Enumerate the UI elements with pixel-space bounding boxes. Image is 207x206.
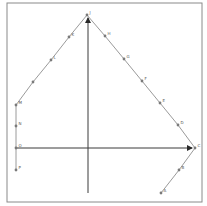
point-label: N	[19, 121, 22, 126]
point-label: A	[164, 188, 167, 193]
point-marker	[178, 169, 181, 172]
point-marker	[104, 35, 107, 38]
point-marker	[86, 14, 89, 17]
point-label: B	[182, 165, 185, 170]
point-marker	[15, 169, 18, 172]
point-marker	[15, 147, 18, 150]
point-marker	[50, 59, 53, 62]
point-label: C	[198, 143, 201, 148]
point-label: O	[19, 143, 22, 148]
point-label: E	[163, 98, 166, 103]
point-marker	[159, 102, 162, 105]
point-marker	[15, 125, 18, 128]
point-label: D	[181, 120, 184, 125]
point-path	[16, 15, 195, 193]
point-label: F	[145, 76, 148, 81]
point-marker	[194, 147, 197, 150]
point-marker	[141, 80, 144, 83]
point-label: G	[127, 54, 130, 59]
points-layer: ABCDEFGHJKLMNOP	[15, 10, 201, 195]
point-marker	[160, 192, 163, 195]
point-marker	[15, 104, 18, 107]
point-label: L	[54, 55, 57, 60]
point-label: H	[108, 31, 111, 36]
point-label: M	[19, 100, 23, 105]
diagram-svg: ABCDEFGHJKLMNOP	[0, 0, 207, 206]
point-marker	[32, 81, 35, 84]
point-label: P	[19, 165, 22, 170]
point-marker	[68, 36, 71, 39]
point-marker	[123, 58, 126, 61]
point-marker	[177, 124, 180, 127]
point-label: J	[89, 10, 91, 15]
diagram-canvas: ABCDEFGHJKLMNOP	[0, 0, 207, 206]
diagram-frame	[7, 3, 202, 202]
point-label: K	[72, 32, 75, 37]
